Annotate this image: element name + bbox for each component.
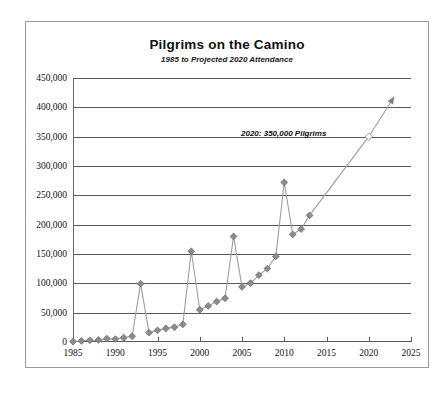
data-point-marker [70, 338, 77, 345]
data-point-marker [179, 321, 186, 328]
data-point-marker [146, 329, 153, 336]
x-axis-tick-label: 2005 [233, 348, 252, 358]
chart-screenshot: Pilgrims on the Camino 1985 to Projected… [0, 0, 444, 393]
x-axis-tick-label: 1990 [106, 348, 125, 358]
projection-annotation: 2020: 350,000 Pilgrims [241, 129, 326, 138]
y-axis-tick-label: 200,000 [36, 220, 67, 230]
data-point-marker [95, 337, 102, 344]
chart-frame: Pilgrims on the Camino 1985 to Projected… [25, 21, 429, 368]
data-point-marker [239, 283, 246, 290]
data-point-marker [171, 324, 178, 331]
data-point-marker [137, 280, 144, 287]
y-axis-tick-label: 0 [62, 337, 67, 347]
y-axis-tick-label: 250,000 [36, 190, 67, 200]
series-line [310, 97, 395, 216]
series-line [73, 182, 310, 341]
y-axis-tick-label: 450,000 [36, 73, 67, 83]
plot-area: 050,000100,000150,000200,000250,000300,0… [73, 78, 411, 342]
y-axis-tick-label: 400,000 [36, 102, 67, 112]
data-point-marker [163, 325, 170, 332]
data-point-marker [213, 298, 220, 305]
x-axis-tick-label: 2010 [275, 348, 294, 358]
y-axis-tick-label: 150,000 [36, 249, 67, 259]
data-point-marker [205, 303, 212, 310]
x-axis-tick-label: 2000 [190, 348, 209, 358]
chart-subtitle: 1985 to Projected 2020 Attendance [26, 55, 428, 64]
data-point-marker [289, 231, 296, 238]
y-axis-tick-label: 50,000 [41, 308, 67, 318]
data-point-marker [196, 306, 203, 313]
data-series [73, 78, 411, 342]
data-point-marker [188, 248, 195, 255]
data-point-marker [281, 179, 288, 186]
data-point-marker [230, 233, 237, 240]
x-axis-tick-label: 1995 [148, 348, 167, 358]
y-axis-tick-label: 100,000 [36, 278, 67, 288]
data-point-marker [78, 338, 85, 345]
x-axis-tick-label: 1985 [64, 348, 83, 358]
x-axis-tick-label: 2015 [317, 348, 336, 358]
y-axis-tick-label: 300,000 [36, 161, 67, 171]
x-axis-tick-label: 2020 [359, 348, 378, 358]
x-axis-tick-label: 2025 [402, 348, 421, 358]
data-point-marker [103, 335, 110, 342]
y-axis-tick-label: 350,000 [36, 132, 67, 142]
data-point-marker [222, 295, 229, 302]
data-point-marker [154, 327, 161, 334]
data-point-marker [87, 337, 94, 344]
projection-arrowhead [388, 97, 394, 105]
chart-title: Pilgrims on the Camino [26, 37, 428, 52]
data-point-marker [298, 226, 305, 233]
data-point-marker [120, 334, 127, 341]
data-point-marker [112, 336, 119, 343]
x-axis-tick [411, 337, 412, 342]
data-point-marker [129, 333, 136, 340]
data-point-marker [272, 253, 279, 260]
